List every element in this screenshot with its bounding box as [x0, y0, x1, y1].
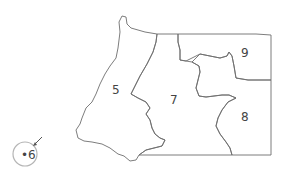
region-8-label: 8	[241, 110, 249, 124]
region-9-label: 9	[241, 46, 249, 60]
region-7-shape[interactable]	[131, 34, 236, 155]
region-6-pointer-arrow	[35, 137, 42, 144]
region-6-label: •6	[21, 148, 36, 162]
region-8-shape[interactable]	[192, 52, 271, 155]
region-5-shape[interactable]	[76, 16, 165, 161]
region-7-label: 7	[170, 93, 178, 107]
region-map: 5 7 8 9 •6	[0, 0, 293, 183]
region-5-label: 5	[112, 83, 120, 97]
